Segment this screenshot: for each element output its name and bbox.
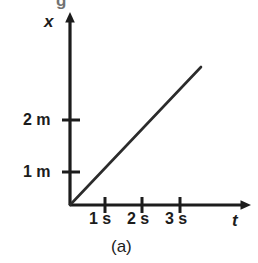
y-axis (65, 12, 75, 205)
figure-container: g x t 2 m 1 m 1 s 2 s 3 s (0, 0, 258, 263)
y-tick-label-1m: 1 m (23, 164, 51, 180)
x-axis (70, 200, 251, 210)
y-axis-label: x (44, 13, 53, 30)
y-tick-label-2m: 2 m (23, 112, 51, 128)
figure-caption: (a) (111, 238, 132, 255)
data-line-series-0 (70, 67, 201, 205)
x-tick-label-3s: 3 s (165, 211, 187, 227)
x-axis-label: t (232, 212, 238, 229)
x-tick-label-1s: 1 s (89, 211, 111, 227)
x-tick-label-2s: 2 s (127, 211, 149, 227)
